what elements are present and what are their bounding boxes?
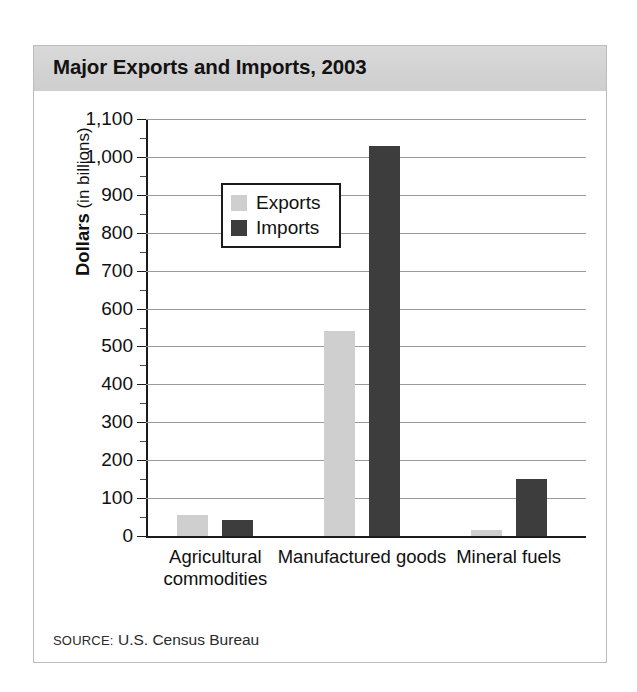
gridline [146, 271, 586, 272]
y-axis-tick-label: 300 [101, 411, 133, 433]
y-axis-line [146, 119, 148, 538]
gridline [146, 346, 586, 347]
y-axis-tick-major [137, 309, 146, 310]
y-axis-tick-label: 1,000 [85, 146, 133, 168]
y-axis-tick-major [137, 498, 146, 499]
y-axis-title-strong: Dollars [72, 213, 93, 276]
bar-exports-2 [471, 530, 502, 536]
bar-exports-0 [177, 515, 208, 536]
y-axis-tick-label: 900 [101, 184, 133, 206]
source-prefix: SOURCE: [53, 633, 114, 648]
y-axis-tick-minor [140, 138, 146, 139]
y-axis-tick-label: 200 [101, 449, 133, 471]
y-axis-tick-major [137, 157, 146, 158]
y-axis-tick-minor [140, 328, 146, 329]
y-axis-tick-label: 100 [101, 487, 133, 509]
x-axis-category-label: Mineral fuels [419, 546, 599, 568]
plot-area: 1,1001,0009008007006005004003002001000 [146, 119, 586, 538]
y-axis-tick-major [137, 422, 146, 423]
gridline [146, 195, 586, 196]
x-axis-line [146, 536, 586, 538]
legend-item-exports: Exports [231, 190, 331, 215]
bar-imports-0 [222, 520, 253, 536]
y-axis-tick-minor [140, 290, 146, 291]
y-axis-tick-major [137, 346, 146, 347]
y-axis-tick-major [137, 195, 146, 196]
gridline [146, 309, 586, 310]
title-band: Major Exports and Imports, 2003 [34, 46, 606, 91]
gridline [146, 384, 586, 385]
y-axis-title-rest: (in billions) [74, 127, 93, 213]
y-axis-tick-minor [140, 517, 146, 518]
gridline [146, 422, 586, 423]
y-axis-tick-major [137, 536, 146, 537]
legend-swatch-imports-icon [231, 220, 247, 236]
gridline [146, 119, 586, 120]
gridline [146, 157, 586, 158]
y-axis-tick-label: 1,100 [85, 108, 133, 130]
y-axis-tick-major [137, 271, 146, 272]
bar-exports-1 [324, 331, 355, 536]
source-note: SOURCE: U.S. Census Bureau [53, 631, 259, 649]
y-axis-tick-major [137, 384, 146, 385]
gridline [146, 460, 586, 461]
legend-label-imports: Imports [256, 217, 319, 239]
source-text: U.S. Census Bureau [114, 631, 260, 648]
legend-item-imports: Imports [231, 215, 331, 240]
y-axis-tick-major [137, 460, 146, 461]
y-axis-tick-major [137, 119, 146, 120]
y-axis-tick-major [137, 233, 146, 234]
bar-imports-1 [369, 146, 400, 536]
y-axis-tick-minor [140, 214, 146, 215]
y-axis-tick-minor [140, 365, 146, 366]
y-axis-tick-label: 600 [101, 298, 133, 320]
legend-label-exports: Exports [256, 192, 320, 214]
legend-swatch-exports-icon [231, 195, 247, 211]
figure-card: Major Exports and Imports, 2003 Dollars … [33, 45, 607, 663]
y-axis-tick-minor [140, 252, 146, 253]
y-axis-tick-label: 800 [101, 222, 133, 244]
bar-imports-2 [516, 479, 547, 536]
y-axis-tick-label: 400 [101, 373, 133, 395]
y-axis-tick-label: 700 [101, 260, 133, 282]
y-axis-tick-minor [140, 403, 146, 404]
chart-legend: Exports Imports [221, 183, 341, 248]
y-axis-tick-minor [140, 176, 146, 177]
y-axis-tick-label: 500 [101, 335, 133, 357]
y-axis-tick-minor [140, 441, 146, 442]
page-title: Major Exports and Imports, 2003 [53, 55, 367, 79]
y-axis-tick-minor [140, 479, 146, 480]
gridline [146, 233, 586, 234]
y-axis-tick-label: 0 [122, 525, 133, 547]
